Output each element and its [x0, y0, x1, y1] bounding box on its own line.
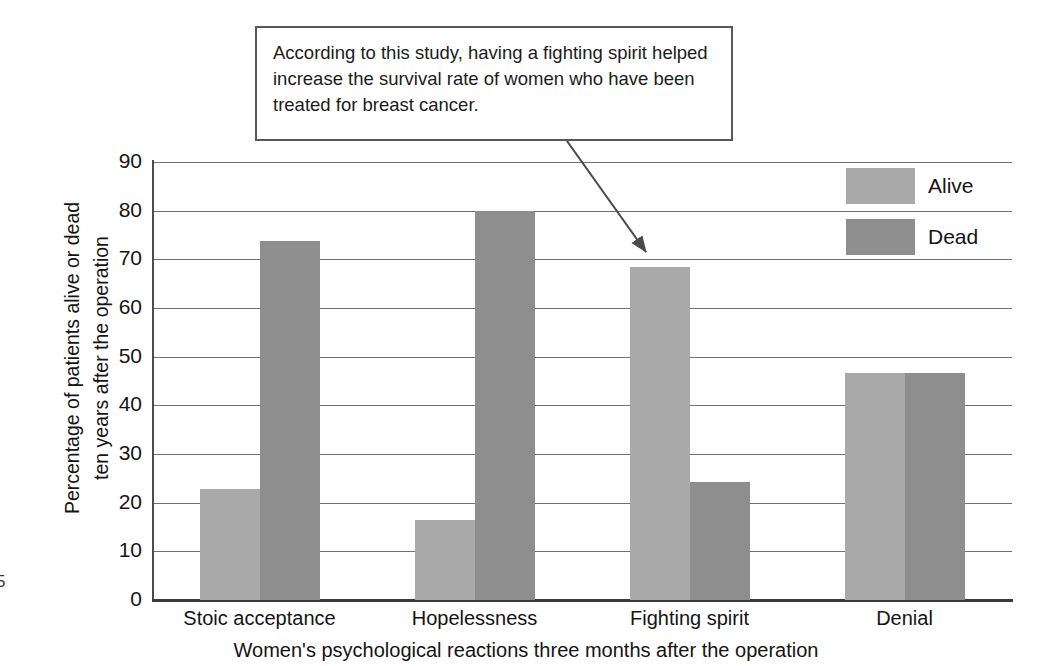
- annotation-callout-box: According to this study, having a fighti…: [255, 26, 733, 141]
- gridline: [152, 211, 1012, 212]
- y-axis-title-line-2: ten years after the operation: [87, 138, 116, 578]
- y-axis-title: Percentage of patients alive or dead ten…: [58, 138, 116, 578]
- legend-label-alive: Alive: [928, 174, 974, 198]
- bar-dead-2: [690, 482, 750, 600]
- legend-swatch-dead: [846, 219, 915, 255]
- x-axis-title: Women's psychological reactions three mo…: [0, 639, 1052, 662]
- y-axis-line: [152, 160, 154, 602]
- bar-alive-3: [845, 373, 905, 600]
- x-category-label: Stoic acceptance: [183, 607, 335, 630]
- gridline: [152, 162, 1012, 163]
- y-tick-label: 0: [96, 587, 142, 611]
- annotation-callout-text: According to this study, having a fighti…: [273, 40, 721, 118]
- bar-dead-0: [260, 241, 320, 600]
- page-number: 5: [0, 572, 5, 592]
- x-category-label: Denial: [876, 607, 933, 630]
- y-axis-title-line-1: Percentage of patients alive or dead: [58, 138, 87, 578]
- x-category-label: Fighting spirit: [630, 607, 749, 630]
- bar-alive-2: [630, 267, 690, 600]
- bar-dead-3: [905, 373, 965, 600]
- legend-swatch-alive: [846, 168, 915, 204]
- bar-alive-1: [415, 520, 475, 600]
- bar-dead-1: [475, 211, 535, 600]
- bar-alive-0: [200, 489, 260, 600]
- x-category-label: Hopelessness: [412, 607, 538, 630]
- legend-label-dead: Dead: [928, 225, 978, 249]
